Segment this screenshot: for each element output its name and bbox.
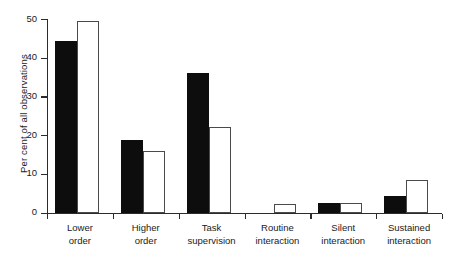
bar-routine-interaction-hollow [274, 204, 296, 213]
y-tick-label-50: 50 [26, 13, 37, 25]
y-tick-label-20: 20 [26, 129, 37, 141]
y-tick-10: 10 [41, 174, 47, 175]
x-separator-2 [179, 214, 180, 219]
x-label-sustained-interaction: Sustainedinteraction [370, 222, 448, 247]
x-label-line: Sustained [370, 222, 448, 235]
bar-silent-interaction-filled [318, 203, 340, 213]
bar-sustained-interaction-hollow [406, 180, 428, 213]
bar-task-supervision-hollow [209, 127, 231, 212]
plot-area: 01020304050 [47, 19, 442, 214]
y-tick-label-10: 10 [26, 167, 37, 179]
y-tick-20: 20 [41, 135, 47, 136]
y-tick-label-0: 0 [32, 206, 37, 218]
x-separator-6 [442, 214, 443, 219]
y-tick-50: 50 [41, 19, 47, 20]
x-separator-3 [245, 214, 246, 219]
y-axis-line [47, 19, 48, 214]
bar-higher-order-hollow [143, 151, 165, 213]
bar-chart: Per cent of all observations 01020304050… [0, 0, 455, 257]
bar-higher-order-filled [121, 140, 143, 213]
y-tick-40: 40 [41, 58, 47, 59]
y-axis-title: Per cent of all observations [18, 14, 29, 214]
bar-silent-interaction-hollow [340, 203, 362, 213]
bar-task-supervision-filled [187, 73, 209, 212]
x-separator-0 [47, 214, 48, 219]
y-tick-label-40: 40 [26, 51, 37, 63]
bar-lower-order-hollow [77, 21, 99, 213]
y-tick-30: 30 [41, 96, 47, 97]
x-separator-5 [376, 214, 377, 219]
bar-sustained-interaction-filled [384, 196, 406, 213]
y-tick-label-30: 30 [26, 90, 37, 102]
x-separator-4 [310, 214, 311, 219]
bar-lower-order-filled [55, 41, 77, 213]
x-separator-1 [113, 214, 114, 219]
x-label-line: interaction [370, 235, 448, 248]
